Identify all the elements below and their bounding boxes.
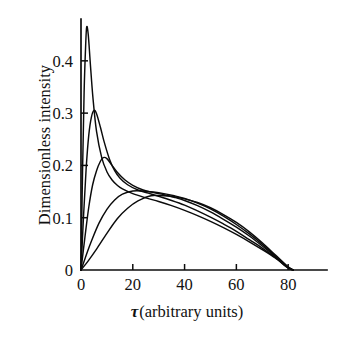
curve-curve-3 (81, 157, 293, 270)
y-tick-label: 0.2 (52, 156, 73, 175)
x-tick-label: 60 (228, 275, 245, 294)
x-axis-ticks (81, 264, 288, 270)
x-tick-label: 40 (176, 275, 193, 294)
y-tick-label: 0.1 (52, 209, 73, 228)
figure-container: 020406080 00.10.20.30.4 Dimensionless in… (0, 0, 340, 343)
tau-symbol: τ (131, 302, 140, 321)
y-axis-label: Dimensionless intensity (35, 20, 55, 270)
y-tick-label: 0.4 (52, 52, 73, 71)
curve-curve-1 (81, 26, 293, 270)
x-axis-label-text: (arbitrary units) (139, 302, 243, 321)
y-tick-label: 0 (65, 261, 73, 280)
axes (81, 19, 327, 270)
x-tick-label: 0 (77, 275, 85, 294)
y-tick-label: 0.3 (52, 104, 73, 123)
x-tick-label: 80 (280, 275, 297, 294)
x-tick-labels: 020406080 (77, 275, 297, 294)
x-axis-label: τ(arbitrary units) (62, 302, 312, 322)
data-curves (81, 26, 293, 270)
y-tick-labels: 00.10.20.30.4 (52, 52, 73, 280)
curve-curve-4 (81, 191, 293, 270)
x-tick-label: 20 (125, 275, 142, 294)
